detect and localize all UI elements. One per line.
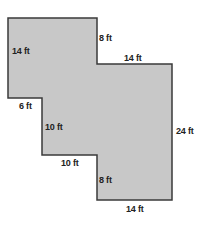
label-left-step-width: 6 ft — [19, 101, 32, 111]
label-bottom-side: 14 ft — [126, 204, 144, 214]
label-lower-step-width: 10 ft — [61, 158, 79, 168]
label-left-middle-side: 10 ft — [45, 122, 63, 132]
floor-plan-diagram: 14 ft 8 ft 14 ft 6 ft 10 ft 24 ft 10 ft … — [0, 0, 208, 245]
label-upper-step-width: 14 ft — [124, 53, 142, 63]
label-lower-step-height: 8 ft — [99, 175, 112, 185]
label-right-side: 24 ft — [176, 126, 194, 136]
floor-plan-polygon — [8, 18, 172, 200]
label-upper-step-height: 8 ft — [99, 33, 112, 43]
label-left-top-side: 14 ft — [12, 46, 30, 56]
